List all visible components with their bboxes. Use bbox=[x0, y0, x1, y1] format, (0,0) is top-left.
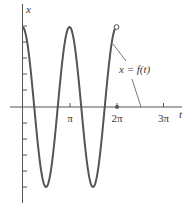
open-circle-endpoint bbox=[114, 25, 119, 30]
y-axis-label: x bbox=[25, 3, 31, 15]
tick-label-3pi: 3π bbox=[158, 112, 170, 124]
leader-line-lower bbox=[132, 79, 141, 107]
parametric-graph: x t x = f(t) π 2π 3π bbox=[0, 0, 194, 210]
tick-label-2pi: 2π bbox=[111, 112, 123, 124]
x-axis-label: t bbox=[179, 108, 183, 120]
tick-label-pi: π bbox=[67, 112, 73, 124]
filled-dot-2pi bbox=[115, 105, 119, 109]
curve-label: x = f(t) bbox=[118, 63, 151, 76]
leader-line-upper bbox=[113, 44, 126, 61]
